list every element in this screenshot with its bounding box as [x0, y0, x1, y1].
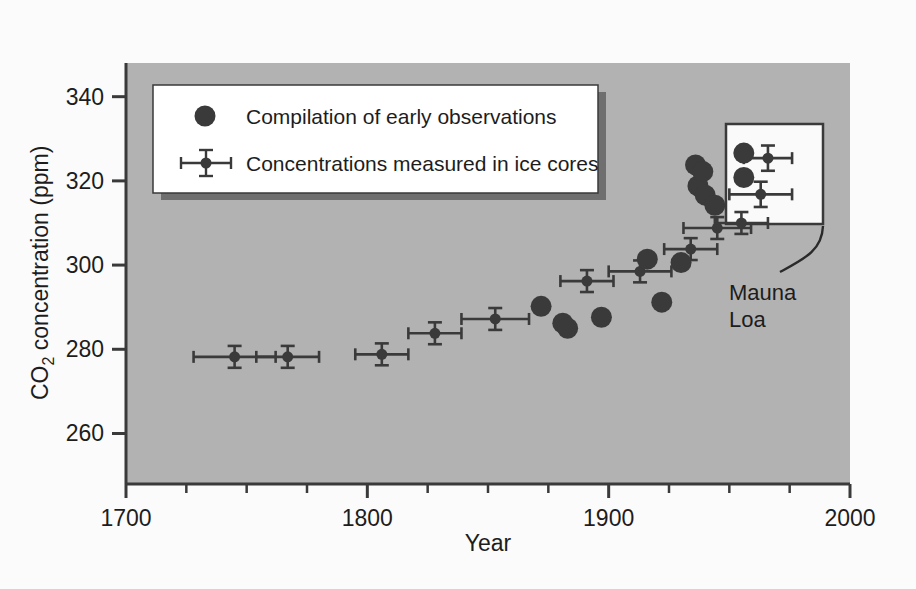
svg-text:CO2 concentration (ppm): CO2 concentration (ppm) — [27, 146, 57, 400]
y-tick-label: 280 — [66, 336, 104, 362]
data-point-early-observation — [704, 195, 725, 216]
co2-concentration-figure: 260280300320340 1700180019002000 CO2 con… — [0, 0, 916, 589]
x-tick-label: 1800 — [342, 505, 393, 531]
y-axis-title-subscript: 2 — [40, 357, 57, 366]
mauna-loa-label-line2: Loa — [729, 307, 766, 332]
x-tick-label: 2000 — [824, 505, 875, 531]
legend-marker-filled-circle — [195, 106, 216, 127]
y-axis-title-main: CO — [27, 366, 53, 401]
y-tick-label: 260 — [66, 420, 104, 446]
legend-label-ice-cores: Concentrations measured in ice cores — [246, 152, 599, 175]
data-point-early-observation — [651, 292, 672, 313]
legend: Compilation of early observations Concen… — [153, 85, 606, 200]
legend-label-early-observations: Compilation of early observations — [246, 105, 557, 128]
data-point-early-observation — [692, 161, 713, 182]
y-axis-ticks — [112, 97, 126, 434]
data-point-early-observation — [733, 167, 754, 188]
y-tick-label: 340 — [66, 84, 104, 110]
data-point-early-observation — [637, 249, 658, 270]
x-axis-title: Year — [465, 530, 512, 556]
x-tick-label: 1700 — [100, 505, 151, 531]
y-tick-label: 320 — [66, 168, 104, 194]
data-point-early-observation — [733, 143, 754, 164]
x-tick-label: 1900 — [583, 505, 634, 531]
mauna-loa-label-line1: Mauna — [729, 280, 797, 305]
data-point-early-observation — [591, 307, 612, 328]
y-axis-title: CO2 concentration (ppm) — [27, 146, 57, 400]
chart-canvas: 260280300320340 1700180019002000 CO2 con… — [0, 0, 916, 589]
y-tick-label: 300 — [66, 252, 104, 278]
data-point-early-observation — [671, 252, 692, 273]
x-axis-tick-labels: 1700180019002000 — [100, 505, 875, 531]
y-axis-tick-labels: 260280300320340 — [66, 84, 104, 447]
y-axis-title-rest: concentration (ppm) — [27, 146, 53, 357]
data-point-early-observation — [557, 318, 578, 339]
legend-marker-error-bars-dot — [201, 158, 212, 169]
legend-background — [153, 85, 598, 193]
data-point-early-observation — [531, 296, 552, 317]
